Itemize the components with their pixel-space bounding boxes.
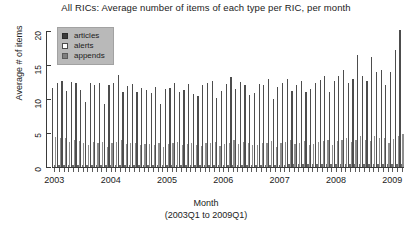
bar-articles xyxy=(113,83,114,167)
x-axis-tick xyxy=(148,168,149,172)
x-axis-title: Month xyxy=(0,198,412,208)
bar-articles xyxy=(179,92,180,167)
bar-articles xyxy=(216,98,217,167)
legend-swatch-articles-icon xyxy=(62,33,68,39)
x-axis-tick xyxy=(87,168,88,172)
bar-articles xyxy=(57,83,58,167)
x-axis-tick xyxy=(289,168,290,172)
bar-articles xyxy=(244,85,245,167)
bar-articles xyxy=(118,75,119,167)
bar-articles xyxy=(240,82,241,167)
legend-label-articles: articles xyxy=(74,31,99,40)
bar-articles xyxy=(305,92,306,167)
legend-swatch-alerts-icon xyxy=(62,43,68,49)
x-axis-subtitle: (2003Q1 to 2009Q1) xyxy=(0,210,412,220)
bar-articles xyxy=(296,85,297,167)
bar-articles xyxy=(268,79,269,167)
x-axis-tick xyxy=(200,168,201,172)
x-axis-tick xyxy=(219,168,220,172)
y-axis-title: Average # of items xyxy=(14,8,24,118)
x-axis-tick xyxy=(195,168,196,172)
bar-articles xyxy=(338,76,339,167)
bar-articles xyxy=(329,92,330,167)
x-axis-tick-label: 2006 xyxy=(203,175,243,185)
x-axis-tick xyxy=(153,168,154,172)
x-axis-tick xyxy=(378,168,379,172)
x-axis-tick xyxy=(214,168,215,172)
x-axis-tick xyxy=(312,168,313,172)
x-axis-tick xyxy=(322,168,323,172)
y-axis-tick xyxy=(46,167,51,168)
legend-label-appends: appends xyxy=(74,51,105,60)
x-axis-tick xyxy=(139,168,140,172)
bar-articles xyxy=(230,77,231,167)
bar-articles xyxy=(122,92,123,167)
x-axis-tick xyxy=(237,168,238,172)
x-axis-tick xyxy=(78,168,79,172)
bar-articles xyxy=(99,83,100,167)
chart-figure: All RICs: Average number of items of eac… xyxy=(0,0,412,233)
bar-articles xyxy=(357,55,358,167)
x-axis-tick xyxy=(120,168,121,172)
x-axis-tick xyxy=(233,168,234,172)
bar-group xyxy=(399,31,404,167)
bar-articles xyxy=(399,30,400,167)
bar-articles xyxy=(52,88,53,167)
x-axis-tick xyxy=(373,168,374,172)
x-axis-tick xyxy=(298,168,299,172)
bar-articles xyxy=(136,92,137,167)
x-axis-tick xyxy=(294,168,295,172)
chart-title: All RICs: Average number of items of eac… xyxy=(0,2,412,13)
y-axis-tick-label: 5 xyxy=(33,133,43,159)
x-axis-tick xyxy=(359,168,360,172)
x-axis-tick xyxy=(176,168,177,172)
x-axis-tick xyxy=(83,168,84,172)
x-axis-tick xyxy=(402,168,403,172)
x-axis-tick xyxy=(97,168,98,172)
bar-articles xyxy=(277,87,278,167)
x-axis-tick xyxy=(303,168,304,172)
bar-articles xyxy=(226,84,227,167)
x-axis-tick xyxy=(345,168,346,172)
x-axis-tick xyxy=(341,168,342,172)
bar-articles xyxy=(221,91,222,167)
x-axis-tick xyxy=(280,168,281,172)
x-axis-tick xyxy=(186,168,187,172)
x-axis-tick xyxy=(167,168,168,172)
bar-articles xyxy=(390,72,391,167)
bar-articles xyxy=(151,93,152,167)
x-axis-tick xyxy=(162,168,163,172)
x-axis-tick xyxy=(308,168,309,172)
bar-articles xyxy=(287,79,288,167)
bar-articles xyxy=(282,83,283,167)
x-axis-tick xyxy=(125,168,126,172)
bar-articles xyxy=(94,85,95,167)
bar-articles xyxy=(249,95,250,167)
x-axis-tick xyxy=(256,168,257,172)
bar-articles xyxy=(334,81,335,167)
y-axis-tick xyxy=(46,31,51,32)
x-axis-tick-label: 2005 xyxy=(147,175,187,185)
bar-articles xyxy=(259,84,260,167)
bar-articles xyxy=(183,90,184,167)
x-axis-tick xyxy=(223,168,224,172)
x-axis-tick xyxy=(247,168,248,172)
x-axis-tick xyxy=(266,168,267,172)
bar-articles xyxy=(315,83,316,167)
y-axis-tick-label: 15 xyxy=(33,65,43,91)
bar-articles xyxy=(207,83,208,167)
y-axis-tick xyxy=(46,99,51,100)
bar-articles xyxy=(343,70,344,167)
legend-swatch-appends-icon xyxy=(62,53,68,59)
bar-articles xyxy=(61,81,62,167)
bar-articles xyxy=(146,90,147,167)
x-axis-tick xyxy=(327,168,328,172)
x-axis-tick xyxy=(261,168,262,172)
bar-articles xyxy=(395,50,396,167)
x-axis-tick xyxy=(209,168,210,172)
bar-articles xyxy=(202,85,203,167)
bar-articles xyxy=(165,89,166,167)
bar-articles xyxy=(80,90,81,167)
bar-articles xyxy=(273,99,274,167)
bar-articles xyxy=(263,85,264,167)
